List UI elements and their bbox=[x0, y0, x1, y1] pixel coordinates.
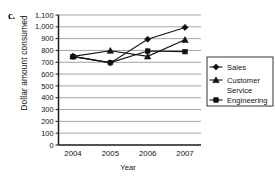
x-tick-label: 2007 bbox=[176, 149, 193, 158]
y-tick-label: 600 bbox=[41, 70, 53, 79]
gridlines bbox=[59, 15, 202, 133]
series-line bbox=[73, 40, 185, 57]
series-line bbox=[73, 51, 185, 63]
y-tick-label: 0 bbox=[49, 141, 53, 150]
legend-marker-square bbox=[214, 98, 219, 103]
data-point-marker bbox=[71, 54, 76, 59]
data-point-marker bbox=[183, 49, 188, 54]
data-point-marker bbox=[145, 49, 150, 54]
legend-label: Service bbox=[227, 86, 252, 95]
series-lines bbox=[73, 27, 185, 62]
data-point-marker bbox=[182, 24, 188, 30]
x-tick-label: 2006 bbox=[139, 149, 156, 158]
y-tick-label: 1,000 bbox=[35, 22, 54, 31]
chart-plot-area: 01002003004005006007008009001,0001,100 2… bbox=[0, 0, 275, 177]
y-tick-label: 500 bbox=[41, 82, 53, 91]
x-tick-labels: 2004200520062007 bbox=[64, 149, 193, 158]
data-point-marker bbox=[182, 37, 188, 43]
y-tick-label: 800 bbox=[41, 46, 53, 55]
legend-label: Engineering bbox=[227, 96, 268, 105]
data-point-marker bbox=[108, 60, 113, 65]
y-tick-label: 100 bbox=[41, 129, 53, 138]
y-tick-label: 900 bbox=[41, 34, 53, 43]
data-point-marker bbox=[145, 36, 151, 42]
legend: SalesCustomerServiceEngineering bbox=[207, 57, 273, 106]
legend-label: Sales bbox=[227, 63, 246, 72]
series-line bbox=[73, 27, 185, 62]
y-tick-label: 700 bbox=[41, 58, 53, 67]
y-tick-labels: 01002003004005006007008009001,0001,100 bbox=[35, 11, 54, 150]
x-tick-label: 2004 bbox=[64, 149, 82, 158]
axis-lines bbox=[59, 15, 202, 145]
chart-figure: c. Dollar amount consumed Year 010020030… bbox=[0, 0, 275, 177]
series-markers bbox=[70, 24, 188, 66]
legend-label: Customer bbox=[227, 76, 260, 85]
y-tick-label: 1,100 bbox=[35, 11, 54, 20]
y-tick-label: 300 bbox=[41, 105, 53, 114]
y-tick-label: 400 bbox=[41, 93, 53, 102]
x-tick-label: 2005 bbox=[102, 149, 120, 158]
y-tick-label: 200 bbox=[41, 117, 53, 126]
